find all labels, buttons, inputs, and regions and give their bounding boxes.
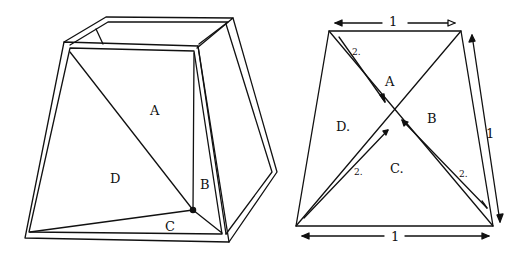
label-c-3d: C [165, 220, 175, 233]
label-d-3d: D [110, 172, 120, 185]
dim-top: 1 [389, 15, 397, 28]
drawing [0, 0, 527, 257]
dim-bottom: 1 [391, 230, 399, 243]
label-a-flat: A [385, 75, 394, 88]
frame-3d [25, 17, 277, 242]
dim-right: 1 [486, 127, 494, 140]
label-b-3d: B [200, 178, 210, 191]
dim-diag-upper-left: 2. [352, 48, 361, 57]
label-d-flat: D. [336, 120, 350, 133]
diagram-canvas: A B C D A B C. D. 1 1 1 2. 2. 2. [0, 0, 527, 257]
label-a-3d: A [150, 104, 159, 117]
dim-diag-lower-left: 2. [354, 168, 363, 177]
label-b-flat: B [427, 112, 437, 125]
dim-diag-lower-right: 2. [459, 170, 468, 179]
label-c-flat: C. [390, 162, 404, 175]
trapezoid-flat [296, 20, 503, 239]
